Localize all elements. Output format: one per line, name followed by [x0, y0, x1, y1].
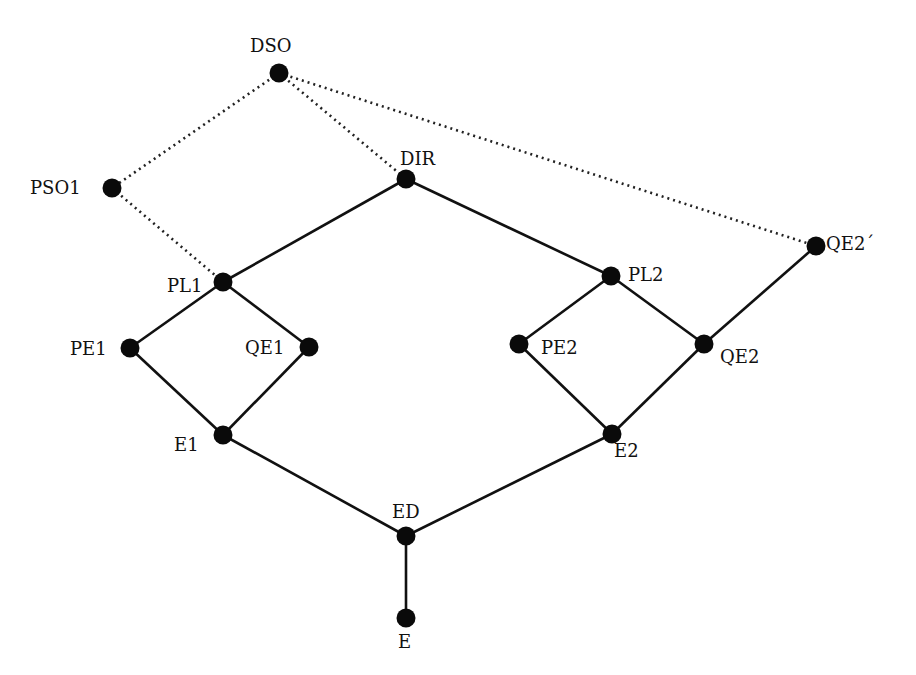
label-e1: E1: [174, 434, 199, 455]
node-pe2: [510, 335, 529, 354]
edge-qe1-e1: [223, 347, 309, 435]
label-qe2p: QE2´: [826, 233, 874, 254]
edge-pl2-pe2: [519, 276, 611, 344]
label-pe2: PE2: [541, 337, 578, 358]
label-dso: DSO: [250, 35, 292, 56]
label-pl2: PL2: [628, 264, 664, 285]
node-pl1: [214, 273, 233, 292]
edge-e1-ed: [223, 435, 406, 536]
node-dso: [270, 64, 289, 83]
node-qe1: [300, 338, 319, 357]
label-pe1: PE1: [70, 338, 107, 359]
edge-pe1-e1: [130, 348, 223, 435]
label-pl1: PL1: [167, 275, 203, 296]
label-qe1: QE1: [245, 337, 284, 358]
node-e1: [214, 426, 233, 445]
node-dir: [397, 170, 416, 189]
label-e: E: [398, 631, 411, 652]
edge-pl2-qe2: [611, 276, 704, 344]
node-pe1: [121, 339, 140, 358]
lattice-diagram: DSOPSO1DIRQE2´PL1PL2PE1QE1PE2QE2E1E2EDE: [0, 0, 916, 675]
dotted-edge-dso-dir: [279, 73, 406, 179]
edge-e2-ed: [406, 434, 612, 536]
dotted-edge-dso-qe2p: [279, 73, 816, 246]
label-dir: DIR: [400, 148, 436, 169]
dotted-edges: [112, 73, 816, 282]
label-qe2: QE2: [720, 346, 759, 367]
node-qe2: [695, 335, 714, 354]
node-pl2: [602, 267, 621, 286]
node-ed: [397, 527, 416, 546]
label-ed: ED: [392, 501, 420, 522]
edge-qe2-qe2p: [704, 246, 816, 344]
node-pso1: [103, 179, 122, 198]
edge-dir-pl1: [223, 179, 406, 282]
dotted-edge-pso1-pl1: [112, 188, 223, 282]
edge-qe2-e2: [612, 344, 704, 434]
node-e: [397, 609, 416, 628]
label-pso1: PSO1: [30, 177, 81, 198]
label-e2: E2: [614, 440, 639, 461]
edge-dir-pl2: [406, 179, 611, 276]
dotted-edge-dso-pso1: [112, 73, 279, 188]
nodes: [103, 64, 826, 628]
node-qe2p: [807, 237, 826, 256]
solid-edges: [130, 179, 816, 618]
